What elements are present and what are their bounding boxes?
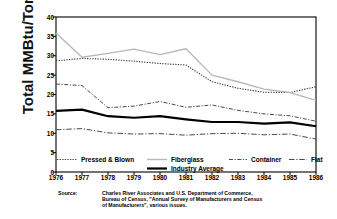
legend-item-pressed-blown[interactable]: Pressed & Blown: [56, 155, 134, 163]
legend-item-container[interactable]: Container: [228, 155, 281, 163]
source-label: Source:: [58, 190, 77, 196]
legend-label: Industry Average: [171, 165, 224, 172]
series-line-industry-average: [56, 110, 316, 127]
legend-label: Container: [251, 156, 281, 163]
legend-item-flat[interactable]: Flat: [288, 155, 323, 163]
series-line-fiberglass: [56, 33, 316, 100]
legend-label: Fiberglass: [171, 156, 204, 163]
legend-swatch: [56, 155, 78, 163]
axis-frame: [56, 17, 316, 172]
legend-swatch: [288, 155, 308, 163]
plot-area: [0, 0, 337, 219]
x-tick-label: 1986: [299, 174, 333, 181]
legend-swatch: [146, 164, 168, 172]
series-line-container: [56, 84, 316, 121]
legend-label: Pressed & Blown: [81, 156, 134, 163]
chart-figure: Total MMBtu/Ton 0510152025303540 1976197…: [0, 0, 337, 219]
legend-swatch: [228, 155, 248, 163]
legend-swatch: [146, 155, 168, 163]
series-line-flat: [56, 129, 316, 139]
legend-label: Flat: [311, 156, 323, 163]
legend-item-fiberglass[interactable]: Fiberglass: [146, 155, 204, 163]
legend-item-industry-average[interactable]: Industry Average: [146, 164, 224, 172]
series-line-pressed-blown: [56, 58, 316, 92]
source-line: of Manufacturers", various issues.: [102, 202, 262, 208]
x-axis-ticks: 1976197719781979198019811982198319841985…: [56, 174, 316, 186]
source-text: Charles River Associates and U.S. Depart…: [102, 190, 262, 209]
